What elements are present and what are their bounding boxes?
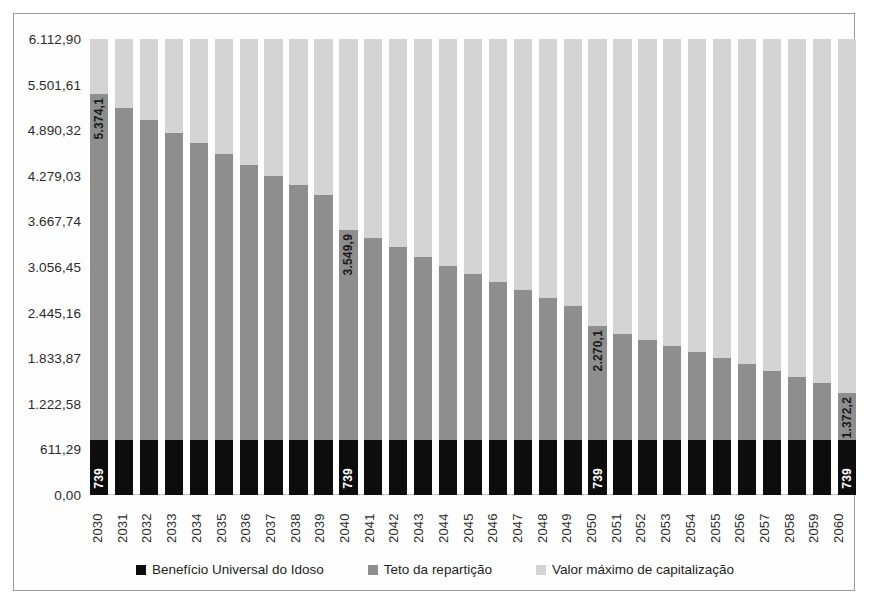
- bar-column[interactable]: [439, 39, 457, 495]
- bar-segment-capitalizacao: [314, 39, 332, 195]
- bar-segment-capitalizacao: [364, 39, 382, 238]
- bar-column[interactable]: [165, 39, 183, 495]
- bar-value-label-beneficio: 739: [342, 468, 354, 489]
- bar-segment-beneficio: [539, 440, 557, 495]
- legend-item[interactable]: Benefício Universal do Idoso: [136, 562, 324, 577]
- legend-item[interactable]: Valor máximo de capitalização: [536, 562, 734, 577]
- x-tick-label: 2054: [683, 500, 708, 556]
- bar-column[interactable]: 2.270,1739: [588, 39, 606, 495]
- chart-frame: 0,00611,291.222,581.833,872.445,163.056,…: [13, 13, 855, 591]
- bar-segment-capitalizacao: [140, 39, 158, 120]
- bar-segment-beneficio: [514, 440, 532, 495]
- bar-segment-capitalizacao: [215, 39, 233, 154]
- bar-column[interactable]: [713, 39, 731, 495]
- x-tick-label: 2047: [510, 500, 535, 556]
- bar-column[interactable]: [414, 39, 432, 495]
- bar-segment-capitalizacao: [464, 39, 482, 274]
- bar-segment-beneficio: [314, 440, 332, 495]
- x-tick-label: 2056: [732, 500, 757, 556]
- bar-column[interactable]: 3.549,9739: [339, 39, 357, 495]
- bar-segment-beneficio: [788, 440, 806, 495]
- x-tick-label: 2053: [658, 500, 683, 556]
- x-tick-label: 2041: [362, 500, 387, 556]
- bar-segment-beneficio: 739: [90, 440, 108, 495]
- bar-segment-teto: [389, 247, 407, 439]
- bar-column[interactable]: 1.372,2739: [838, 39, 856, 495]
- bar-segment-teto: [215, 154, 233, 440]
- x-tick-label: 2046: [485, 500, 510, 556]
- legend-label: Valor máximo de capitalização: [552, 562, 734, 577]
- bar-segment-beneficio: [738, 440, 756, 495]
- bar-value-label-teto: 5.374,1: [93, 98, 105, 139]
- bar-column[interactable]: [215, 39, 233, 495]
- bar-column[interactable]: [539, 39, 557, 495]
- bar-segment-beneficio: [240, 440, 258, 495]
- bar-column[interactable]: [389, 39, 407, 495]
- bar-value-label-beneficio: 739: [592, 468, 604, 489]
- bar-value-label-teto: 1.372,2: [841, 397, 853, 438]
- bar-segment-teto: [464, 274, 482, 440]
- bar-segment-beneficio: [613, 440, 631, 495]
- bar-column[interactable]: [688, 39, 706, 495]
- x-tick-label: 2043: [411, 500, 436, 556]
- legend-item[interactable]: Teto da repartição: [368, 562, 492, 577]
- bar-segment-teto: [813, 383, 831, 440]
- bar-column[interactable]: 5.374,1739: [90, 39, 108, 495]
- bar-segment-capitalizacao: [190, 39, 208, 143]
- bar-segment-teto: 3.549,9: [339, 230, 357, 440]
- y-tick-label: 1.833,87: [28, 351, 81, 366]
- bar-segment-capitalizacao: [564, 39, 582, 306]
- bar-segment-capitalizacao: [539, 39, 557, 298]
- bar-column[interactable]: [314, 39, 332, 495]
- bar-column[interactable]: [489, 39, 507, 495]
- y-tick-label: 6.112,90: [29, 32, 81, 47]
- x-tick-label: 2058: [782, 500, 807, 556]
- bar-segment-beneficio: [638, 440, 656, 495]
- bar-column[interactable]: [264, 39, 282, 495]
- x-tick-label: 2044: [436, 500, 461, 556]
- bar-column[interactable]: [190, 39, 208, 495]
- bar-segment-capitalizacao: [264, 39, 282, 176]
- bar-segment-capitalizacao: [788, 39, 806, 377]
- bar-segment-capitalizacao: [514, 39, 532, 290]
- bar-segment-teto: [713, 358, 731, 440]
- bar-column[interactable]: [813, 39, 831, 495]
- bar-column[interactable]: [240, 39, 258, 495]
- bar-column[interactable]: [663, 39, 681, 495]
- bar-segment-beneficio: [688, 440, 706, 495]
- bar-column[interactable]: [564, 39, 582, 495]
- bar-column[interactable]: [464, 39, 482, 495]
- bar-segment-beneficio: [813, 440, 831, 495]
- bar-segment-beneficio: 739: [588, 440, 606, 495]
- bar-segment-teto: [738, 364, 756, 439]
- bar-segment-capitalizacao: [389, 39, 407, 247]
- bar-segment-teto: 1.372,2: [838, 393, 856, 440]
- bar-segment-teto: [788, 377, 806, 440]
- bar-segment-teto: [264, 176, 282, 440]
- bar-column[interactable]: [115, 39, 133, 495]
- bar-segment-teto: [165, 133, 183, 440]
- bar-segment-capitalizacao: [414, 39, 432, 256]
- bar-segment-teto: [539, 298, 557, 440]
- bar-column[interactable]: [763, 39, 781, 495]
- bar-value-label-beneficio: 739: [93, 468, 105, 489]
- x-tick-label: 2048: [535, 500, 560, 556]
- bar-segment-teto: 2.270,1: [588, 326, 606, 440]
- bar-column[interactable]: [638, 39, 656, 495]
- y-tick-label: 3.056,45: [28, 260, 81, 275]
- x-tick-label: 2049: [559, 500, 584, 556]
- bar-column[interactable]: [140, 39, 158, 495]
- bar-column[interactable]: [788, 39, 806, 495]
- bar-segment-capitalizacao: [813, 39, 831, 383]
- x-tick-label: 2051: [609, 500, 634, 556]
- bar-segment-beneficio: [264, 440, 282, 495]
- bar-column[interactable]: [514, 39, 532, 495]
- bar-segment-teto: [314, 195, 332, 440]
- bar-segment-beneficio: [389, 440, 407, 495]
- bar-column[interactable]: [289, 39, 307, 495]
- bar-column[interactable]: [738, 39, 756, 495]
- x-tick-label: 2052: [633, 500, 658, 556]
- bar-column[interactable]: [364, 39, 382, 495]
- bar-segment-teto: [364, 238, 382, 440]
- bar-column[interactable]: [613, 39, 631, 495]
